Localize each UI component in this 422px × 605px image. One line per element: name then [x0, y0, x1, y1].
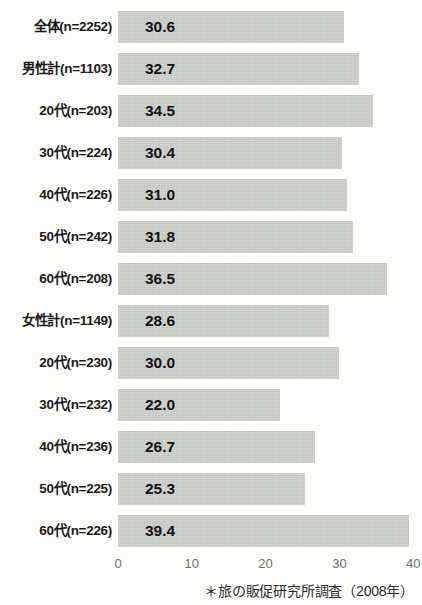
bar-value-label: 22.0 [145, 389, 175, 421]
bar-value-label: 30.4 [145, 137, 175, 169]
bar-value-label: 34.5 [145, 95, 175, 127]
category-label: 20代(n=230) [0, 346, 112, 380]
x-axis-tick-label: 0 [98, 556, 138, 571]
x-axis-tick-label: 20 [246, 556, 286, 571]
bar-row: 男性計(n=1103)32.7 [0, 52, 422, 86]
bar-value-label: 30.0 [145, 347, 175, 379]
bar-row: 30代(n=224)30.4 [0, 136, 422, 170]
category-label: 60代(n=226) [0, 514, 112, 548]
bar-row: 50代(n=225)25.3 [0, 472, 422, 506]
bar-value-label: 28.6 [145, 305, 175, 337]
bar-row: 全体(n=2252)30.6 [0, 10, 422, 44]
bar-row: 60代(n=226)39.4 [0, 514, 422, 548]
chart-source-note: ＊旅の販促研究所調査（2008年） [204, 580, 414, 600]
bar [118, 389, 280, 421]
bar-value-label: 36.5 [145, 263, 175, 295]
category-label: 女性計(n=1149) [0, 304, 112, 338]
bar-value-label: 26.7 [145, 431, 175, 463]
bar-row: 40代(n=226)31.0 [0, 178, 422, 212]
bar-value-label: 31.0 [145, 179, 175, 211]
category-label: 50代(n=242) [0, 220, 112, 254]
category-label: 30代(n=232) [0, 388, 112, 422]
bar-row: 30代(n=232)22.0 [0, 388, 422, 422]
bar-value-label: 25.3 [145, 473, 175, 505]
x-axis-tick-label: 10 [172, 556, 212, 571]
category-label: 40代(n=236) [0, 430, 112, 464]
category-label: 男性計(n=1103) [0, 52, 112, 86]
horizontal-bar-chart: 全体(n=2252)30.6男性計(n=1103)32.720代(n=203)3… [0, 0, 422, 605]
bar-value-label: 30.6 [145, 11, 175, 43]
category-label: 60代(n=208) [0, 262, 112, 296]
bar-row: 50代(n=242)31.8 [0, 220, 422, 254]
category-label: 40代(n=226) [0, 178, 112, 212]
category-label: 全体(n=2252) [0, 10, 112, 44]
category-label: 30代(n=224) [0, 136, 112, 170]
x-axis-tick-label: 30 [319, 556, 359, 571]
category-label: 20代(n=203) [0, 94, 112, 128]
bar-row: 40代(n=236)26.7 [0, 430, 422, 464]
x-axis-tick-label: 40 [393, 556, 422, 571]
bar-value-label: 39.4 [145, 515, 175, 547]
category-label: 50代(n=225) [0, 472, 112, 506]
bar-row: 女性計(n=1149)28.6 [0, 304, 422, 338]
bar-value-label: 32.7 [145, 53, 175, 85]
bar-row: 20代(n=203)34.5 [0, 94, 422, 128]
bar-row: 20代(n=230)30.0 [0, 346, 422, 380]
bar-value-label: 31.8 [145, 221, 175, 253]
x-axis: 010203040 [0, 556, 422, 578]
bar-row: 60代(n=208)36.5 [0, 262, 422, 296]
